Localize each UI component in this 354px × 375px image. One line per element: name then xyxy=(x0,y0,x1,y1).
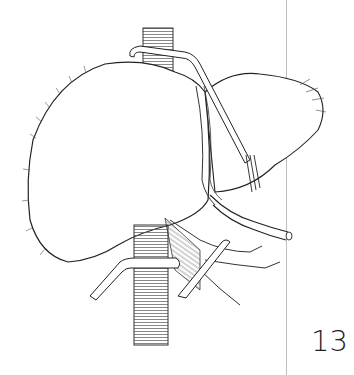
liver-surgery-illustration xyxy=(0,0,354,375)
right-liver-lobe xyxy=(22,62,209,262)
left-liver-lobe xyxy=(205,73,326,192)
book-page: 13 xyxy=(0,0,354,375)
vena-cava-lower xyxy=(134,225,168,345)
round-ligament xyxy=(210,195,292,240)
page-number: 13 xyxy=(311,326,348,356)
